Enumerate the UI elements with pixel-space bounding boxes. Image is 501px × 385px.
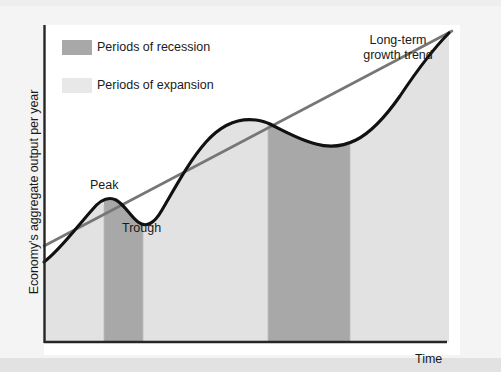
annotation-trend-line2: growth trend	[363, 48, 432, 62]
label-peak: Peak	[90, 178, 119, 192]
legend-label-expansion: Periods of expansion	[97, 78, 214, 92]
legend-label-recession: Periods of recession	[97, 40, 210, 54]
band-recession-2	[268, 25, 350, 342]
band-expansion-3	[350, 25, 460, 342]
label-trough: Trough	[122, 221, 161, 235]
annotation-trend-line1: Long-term	[370, 33, 427, 47]
y-axis-title: Economy's aggregate output per year	[27, 82, 41, 302]
legend-swatch-recession	[62, 40, 92, 55]
annotation-long-term-growth-trend: Long-termgrowth trend	[355, 33, 441, 62]
business-cycle-figure: Periods of recession Periods of expansio…	[0, 0, 501, 385]
x-axis-title: Time	[415, 352, 442, 366]
legend-swatch-expansion	[62, 78, 92, 93]
